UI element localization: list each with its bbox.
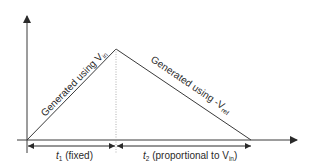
dual-slope-diagram: Generated using Vin Generated using -Vre…	[0, 0, 311, 168]
rise-label: Generated using Vin	[39, 47, 110, 119]
t2-label: t2 (proportional to Vin)	[143, 150, 237, 162]
falling-ramp-line	[116, 49, 251, 140]
rising-ramp-line	[27, 49, 116, 140]
t1-label: t1 (fixed)	[56, 150, 93, 162]
fall-label: Generated using -Vref	[148, 54, 233, 117]
